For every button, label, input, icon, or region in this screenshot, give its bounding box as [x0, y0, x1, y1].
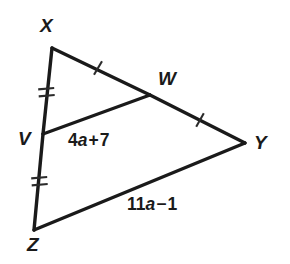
- triangle-figure: [0, 0, 290, 264]
- constant-vw: 7: [100, 130, 110, 150]
- segment-vz: [34, 134, 43, 230]
- coefficient-vw: 4: [68, 130, 78, 150]
- segment-zy: [34, 143, 245, 230]
- constant-zy: 1: [167, 194, 177, 214]
- variable-vw: a: [78, 130, 88, 150]
- segment-label-vw: 4a+7: [68, 132, 109, 150]
- coefficient-zy: 11: [127, 194, 146, 214]
- segment-label-zy: 11a−1: [127, 196, 177, 214]
- vertex-label-x: X: [40, 16, 53, 35]
- segment-vw-midsegment: [43, 95, 150, 134]
- variable-zy: a: [146, 194, 156, 214]
- geometry-diagram: X W Y V Z 4a+7 11a−1: [0, 0, 290, 264]
- vertex-label-y: Y: [254, 133, 267, 152]
- operator-zy: −: [155, 194, 167, 214]
- vertex-label-v: V: [18, 129, 31, 148]
- vertex-label-z: Z: [27, 235, 39, 254]
- segment-wy: [150, 95, 245, 143]
- operator-vw: +: [87, 130, 99, 150]
- segment-xw: [52, 48, 150, 95]
- vertex-label-w: W: [158, 69, 176, 88]
- segment-xv: [43, 48, 52, 134]
